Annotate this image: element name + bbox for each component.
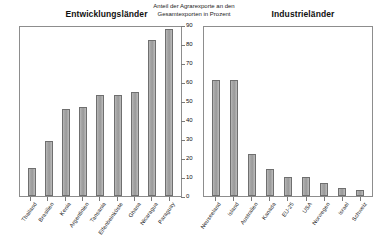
y-axis-tick-mark xyxy=(181,45,185,46)
chart-axis-title: Anteil der Agrarexporte an den Gesamtexp… xyxy=(142,3,246,18)
bar-slot xyxy=(57,27,74,196)
bar-slot xyxy=(207,27,225,196)
bar-slot xyxy=(243,27,261,196)
y-axis-tick-mark xyxy=(181,26,185,27)
x-axis-label-slot: Brasilien xyxy=(39,201,56,250)
y-axis-tick-mark xyxy=(181,102,185,103)
x-axis-category-label: Norwegen xyxy=(311,201,331,226)
bar-slot xyxy=(297,27,315,196)
x-axis-label-slot: Neuseeland xyxy=(206,201,224,250)
x-axis-category-label: Ghana xyxy=(127,201,142,219)
x-axis-label-slot: Australien xyxy=(242,201,260,250)
x-axis-category-label: Israel xyxy=(336,201,349,216)
bar-slot xyxy=(351,27,369,196)
y-axis-tick-mark xyxy=(181,121,185,122)
x-axis-category-label: Kenia xyxy=(59,201,72,217)
bar-group-left xyxy=(20,27,181,196)
bar-brasilien[interactable] xyxy=(45,141,53,196)
bar-australien[interactable] xyxy=(248,154,256,196)
bar-slot xyxy=(92,27,109,196)
bar-slot xyxy=(40,27,57,196)
x-axis-label-slot: Nicaragua xyxy=(143,201,160,250)
y-axis-tick-label: 10 xyxy=(186,174,193,180)
y-axis-tick-label: 80 xyxy=(186,41,193,47)
bar-kanada[interactable] xyxy=(266,169,274,196)
x-axis-label-slot: Thailand xyxy=(22,201,39,250)
plot-area-left xyxy=(19,26,181,197)
y-axis-tick-mark xyxy=(181,64,185,65)
y-axis-spine xyxy=(181,26,182,197)
bar-slot xyxy=(23,27,40,196)
bar-slot xyxy=(279,27,297,196)
y-axis-tick-mark xyxy=(181,83,185,84)
bar-thailand[interactable] xyxy=(28,168,36,197)
chart-axis-title-line-1: Anteil der Agrarexporte an den xyxy=(142,3,246,11)
bar-slot xyxy=(225,27,243,196)
bar-usa[interactable] xyxy=(302,177,310,196)
bar-elfenbeink-ste[interactable] xyxy=(114,95,122,196)
bar-slot xyxy=(75,27,92,196)
y-axis-tick-label: 0 xyxy=(186,193,189,199)
bar-slot xyxy=(261,27,279,196)
x-axis-label-slot: USA xyxy=(297,201,315,250)
panel-title-right: Industrieländer xyxy=(248,9,358,19)
bar-eu-25[interactable] xyxy=(284,177,292,196)
y-axis-tick-label: 20 xyxy=(186,155,193,161)
bar-slot xyxy=(315,27,333,196)
x-axis-label-slot: Elfenbeinküste xyxy=(109,201,126,250)
bar-kenia[interactable] xyxy=(62,109,70,196)
bar-island[interactable] xyxy=(230,80,238,196)
x-axis-label-slot: Paraguay xyxy=(161,201,178,250)
y-axis-tick-mark xyxy=(181,140,185,141)
bar-tansania[interactable] xyxy=(96,95,104,196)
y-axis-tick-mark xyxy=(181,197,185,198)
bar-ghana[interactable] xyxy=(131,92,139,197)
x-axis-label-slot: EU-25 xyxy=(279,201,297,250)
chart-figure: Entwicklungsländer Anteil der Agrarexpor… xyxy=(0,0,380,250)
bar-paraguay[interactable] xyxy=(165,29,173,196)
bar-slot xyxy=(144,27,161,196)
x-axis-label-slot: Argentinien xyxy=(74,201,91,250)
x-axis-labels-right: NeuseelandIslandAustralienKanadaEU-25USA… xyxy=(203,201,373,250)
bar-slot xyxy=(109,27,126,196)
bar-nicaragua[interactable] xyxy=(148,40,156,196)
x-axis-label-slot: Ghana xyxy=(126,201,143,250)
x-axis-label-slot: Schweiz xyxy=(352,201,370,250)
y-axis-tick-label: 90 xyxy=(186,22,193,28)
chart-axis-title-line-2: Gesamtexporten in Prozent xyxy=(142,11,246,19)
y-axis-tick-label: 30 xyxy=(186,136,193,142)
y-axis-tick-mark xyxy=(181,178,185,179)
bar-slot xyxy=(126,27,143,196)
x-axis-labels-left: ThailandBrasilienKeniaArgentinienTansani… xyxy=(19,201,181,250)
y-axis: 0102030405060708090 xyxy=(181,26,203,197)
x-axis-label-slot: Israel xyxy=(334,201,352,250)
bar-group-right xyxy=(204,27,372,196)
y-axis-tick-label: 70 xyxy=(186,60,193,66)
x-axis-label-slot: Norwegen xyxy=(315,201,333,250)
x-axis-category-label: EU-25 xyxy=(281,201,295,218)
x-axis-category-label: Island xyxy=(226,201,240,217)
y-axis-tick-mark xyxy=(181,159,185,160)
bar-slot xyxy=(333,27,351,196)
bar-israel[interactable] xyxy=(338,188,346,196)
y-axis-tick-label: 40 xyxy=(186,117,193,123)
bar-norwegen[interactable] xyxy=(320,183,328,196)
plot-area-right xyxy=(203,26,373,197)
bar-schweiz[interactable] xyxy=(356,190,364,196)
x-axis-label-slot: Kanada xyxy=(261,201,279,250)
y-axis-tick-label: 50 xyxy=(186,98,193,104)
x-axis-label-slot: Island xyxy=(224,201,242,250)
bar-slot xyxy=(161,27,178,196)
bar-argentinien[interactable] xyxy=(79,107,87,196)
x-axis-category-label: Brasilien xyxy=(37,201,55,223)
x-axis-category-label: Australien xyxy=(239,201,259,226)
x-axis-category-label: USA xyxy=(301,201,313,214)
bar-neuseeland[interactable] xyxy=(212,80,220,196)
y-axis-tick-label: 60 xyxy=(186,79,193,85)
x-axis-category-label: Neuseeland xyxy=(199,201,222,230)
x-axis-category-label: Kanada xyxy=(260,201,276,221)
x-axis-category-label: Paraguay xyxy=(157,201,176,225)
x-axis-category-label: Thailand xyxy=(20,201,38,223)
x-axis-category-label: Schweiz xyxy=(351,201,368,222)
